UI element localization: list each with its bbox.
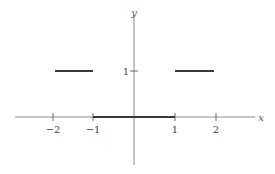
y-tick-label: 1: [123, 66, 129, 77]
x-axis-label: x: [258, 112, 264, 123]
x-tick-label: 1: [172, 124, 178, 135]
piecewise-function-plot: −2 −1 1 2 1 x y: [0, 0, 275, 174]
x-tick-label: 2: [213, 124, 219, 135]
x-tick-label: −2: [46, 124, 61, 135]
x-tick-label: −1: [86, 124, 101, 135]
y-axis-label: y: [130, 7, 137, 18]
